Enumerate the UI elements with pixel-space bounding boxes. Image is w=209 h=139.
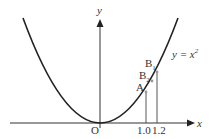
y-axis-arrow-icon [97,19,104,27]
x-axis-label: x [197,118,202,129]
point-b1-label: B1 [145,58,156,74]
point-b2 [151,80,154,83]
diagram-canvas [0,0,209,139]
x-tick-1-0: 1.0 [137,125,151,136]
parabola-diagram: y x O 1.0 1.2 A B2 B1 y = x2 [0,0,209,139]
x-tick-1-2: 1.2 [152,125,166,136]
point-b1 [156,71,159,74]
origin-label: O [91,125,99,136]
curve-equation-label: y = x2 [172,46,198,60]
point-a [145,91,148,94]
x-axis-arrow-icon [187,120,195,127]
y-axis-label: y [97,5,102,16]
